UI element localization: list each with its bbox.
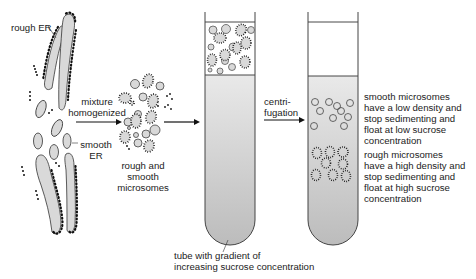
label-smooth-result: smooth microsomes have a low density and… — [364, 91, 462, 146]
tube-before-centrifugation — [205, 12, 255, 252]
label-step1-line1: mixture — [66, 96, 128, 107]
label-step2-line2: fugation — [264, 107, 298, 118]
smooth-er-fragment — [50, 145, 59, 160]
label-tube-gradient: tube with gradient of increasing sucrose… — [174, 250, 314, 272]
label-mixture-line1: rough and — [114, 160, 172, 171]
smooth-result-line: float at low sucrose — [364, 124, 462, 135]
rough-result-line: stop sedimenting and — [364, 171, 465, 182]
rough-er-membrane — [65, 153, 76, 232]
label-step1-line2: homogenized — [66, 107, 128, 118]
rough-result-line: rough microsomes — [364, 149, 465, 160]
smooth-result-line: have a low density and — [364, 102, 462, 113]
smooth-er-fragment — [34, 133, 43, 149]
label-mixture-homogenized: mixture homogenized — [66, 96, 128, 118]
rough-result-line: float at high sucrose — [364, 182, 465, 193]
smooth-er-fragment — [49, 118, 65, 138]
label-tube-line1: tube with gradient of — [174, 250, 314, 261]
tube-after-centrifugation — [308, 12, 358, 245]
label-tube-line2: increasing sucrose concentration — [174, 261, 314, 272]
label-rough-result: rough microsomes have a high density and… — [364, 149, 465, 204]
er-membranes — [21, 13, 78, 234]
smooth-result-line: stop sedimenting and — [364, 113, 462, 124]
rough-result-line: concentration — [364, 193, 465, 204]
label-smooth-er-line2: ER — [78, 150, 114, 161]
label-step2-line1: centri- — [264, 96, 298, 107]
smooth-er-fragment — [63, 134, 71, 149]
label-mixture-line3: microsomes — [114, 182, 172, 193]
smooth-er-fragment — [34, 99, 49, 119]
smooth-result-line: smooth microsomes — [364, 91, 462, 102]
label-centrifugation: centri- fugation — [264, 96, 298, 118]
to-tube-arrow — [164, 119, 200, 125]
homogenize-arrow — [76, 119, 122, 125]
smooth-result-line: concentration — [364, 135, 462, 146]
rough-result-line: have a high density and — [364, 160, 465, 171]
label-rough-and-smooth-microsomes: rough and smooth microsomes — [114, 160, 172, 193]
label-mixture-line2: smooth — [114, 171, 172, 182]
label-smooth-er: smooth ER — [78, 139, 114, 161]
label-rough-er: rough ER — [11, 22, 52, 33]
label-smooth-er-line1: smooth — [78, 139, 114, 150]
